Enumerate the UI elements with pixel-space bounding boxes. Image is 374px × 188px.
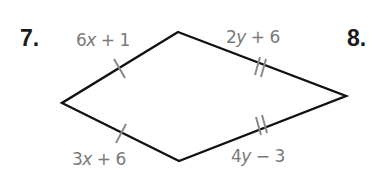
double-tick-mark-bottom-right [256, 115, 267, 135]
coefficient: 6 [76, 30, 86, 50]
coefficient: 3 [72, 149, 82, 169]
operator: − [251, 146, 275, 166]
coefficient: 2 [226, 27, 236, 47]
side-label-top-right: 2y + 6 [226, 29, 280, 46]
double-tick-mark-top-right [255, 57, 266, 77]
problem-number-8: 8. [347, 27, 366, 50]
side-label-top-left: 6x + 1 [76, 32, 130, 49]
variable: x [86, 30, 96, 50]
operator: + [92, 149, 116, 169]
operator: + [246, 27, 270, 47]
constant: 6 [115, 149, 125, 169]
constant: 3 [274, 146, 284, 166]
coefficient: 4 [231, 146, 241, 166]
kite-figure [0, 0, 374, 188]
side-label-bottom-right: 4y − 3 [231, 148, 285, 165]
constant: 1 [119, 30, 129, 50]
problem-number-7: 7. [20, 27, 39, 50]
kite-outline [62, 32, 346, 161]
variable: x [82, 149, 92, 169]
operator: + [96, 30, 120, 50]
tick-mark-top-left [114, 59, 125, 78]
side-label-bottom-left: 3x + 6 [72, 151, 126, 168]
variable: y [236, 27, 246, 47]
variable: y [241, 146, 251, 166]
constant: 6 [269, 27, 279, 47]
